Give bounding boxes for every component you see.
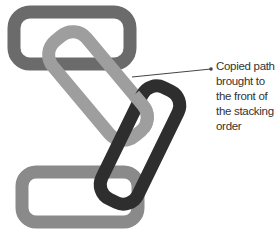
light-link — [41, 24, 154, 147]
callout-label: Copied path brought to the front of the … — [216, 59, 278, 134]
leader-dot — [209, 67, 213, 71]
chain-diagram: Copied path brought to the front of the … — [0, 0, 278, 235]
callout-line-1: Copied path — [216, 59, 278, 74]
callout-line-4: the stacking — [216, 104, 278, 119]
callout-line-3: the front of — [216, 89, 278, 104]
callout-line-2: brought to — [216, 74, 278, 89]
leader-line — [132, 69, 211, 77]
bottom-link — [22, 172, 138, 222]
callout-line-5: order — [216, 119, 278, 134]
